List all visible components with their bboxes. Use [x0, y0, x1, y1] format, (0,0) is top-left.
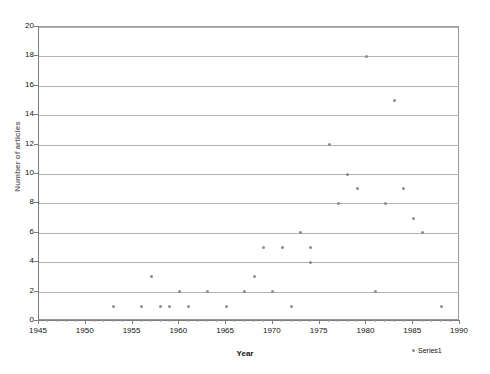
x-minor-tick-mark	[122, 320, 123, 322]
x-minor-tick-mark	[206, 320, 207, 322]
x-tick-mark	[459, 320, 460, 324]
x-minor-tick-mark	[263, 320, 264, 322]
x-tick-label: 1955	[112, 326, 152, 335]
x-minor-tick-mark	[291, 320, 292, 322]
x-tick-mark	[412, 320, 413, 324]
x-minor-tick-mark	[328, 320, 329, 322]
x-minor-tick-mark	[347, 320, 348, 322]
x-minor-tick-mark	[234, 320, 235, 322]
x-minor-tick-mark	[113, 320, 114, 322]
x-tick-mark	[225, 320, 226, 324]
x-minor-tick-mark	[75, 320, 76, 322]
x-tick-mark	[85, 320, 86, 324]
x-tick-label: 1950	[65, 326, 105, 335]
x-minor-tick-mark	[150, 320, 151, 322]
x-tick-label: 1975	[299, 326, 339, 335]
x-minor-tick-mark	[431, 320, 432, 322]
x-minor-tick-mark	[422, 320, 423, 322]
x-minor-tick-mark	[160, 320, 161, 322]
x-minor-tick-mark	[141, 320, 142, 322]
x-minor-tick-mark	[57, 320, 58, 322]
x-minor-tick-mark	[450, 320, 451, 322]
x-minor-tick-mark	[375, 320, 376, 322]
legend-label-series1: Series1	[418, 347, 442, 354]
x-minor-tick-mark	[103, 320, 104, 322]
x-minor-tick-mark	[94, 320, 95, 322]
x-minor-tick-mark	[66, 320, 67, 322]
x-tick-label: 1945	[18, 326, 58, 335]
x-tick-mark	[132, 320, 133, 324]
chart-legend: Series1	[412, 347, 442, 354]
x-tick-label: 1990	[439, 326, 479, 335]
x-tick-mark	[319, 320, 320, 324]
x-minor-tick-mark	[197, 320, 198, 322]
x-minor-tick-mark	[356, 320, 357, 322]
x-minor-tick-mark	[188, 320, 189, 322]
x-minor-tick-mark	[309, 320, 310, 322]
x-tick-label: 1985	[392, 326, 432, 335]
x-minor-tick-mark	[440, 320, 441, 322]
scatter-chart: 02468101214161820 1945195019551960196519…	[0, 0, 490, 374]
x-tick-mark	[365, 320, 366, 324]
x-minor-tick-mark	[253, 320, 254, 322]
x-minor-tick-mark	[281, 320, 282, 322]
x-tick-mark	[178, 320, 179, 324]
x-tick-mark	[38, 320, 39, 324]
x-tick-label: 1960	[158, 326, 198, 335]
x-minor-tick-mark	[244, 320, 245, 322]
x-minor-tick-mark	[47, 320, 48, 322]
x-minor-tick-mark	[337, 320, 338, 322]
x-minor-tick-mark	[169, 320, 170, 322]
x-tick-label: 1965	[205, 326, 245, 335]
x-tick-label: 1980	[345, 326, 385, 335]
legend-marker-icon	[412, 349, 415, 352]
x-minor-tick-mark	[394, 320, 395, 322]
x-minor-tick-mark	[384, 320, 385, 322]
x-tick-label: 1970	[252, 326, 292, 335]
x-minor-tick-mark	[403, 320, 404, 322]
x-axis-ticks: 1945195019551960196519701975198019851990	[0, 0, 490, 374]
x-minor-tick-mark	[300, 320, 301, 322]
x-tick-mark	[272, 320, 273, 324]
y-axis-title: Number of articles	[13, 102, 22, 212]
x-minor-tick-mark	[216, 320, 217, 322]
